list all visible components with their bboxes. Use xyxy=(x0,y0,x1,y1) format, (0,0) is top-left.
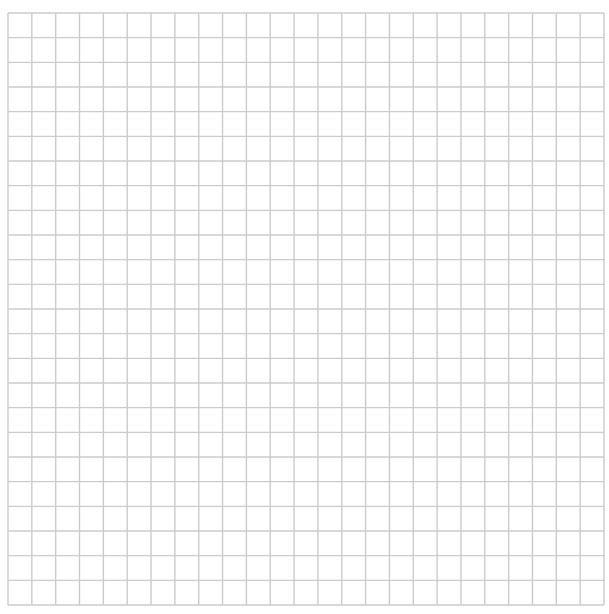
grid-paper xyxy=(0,0,609,614)
